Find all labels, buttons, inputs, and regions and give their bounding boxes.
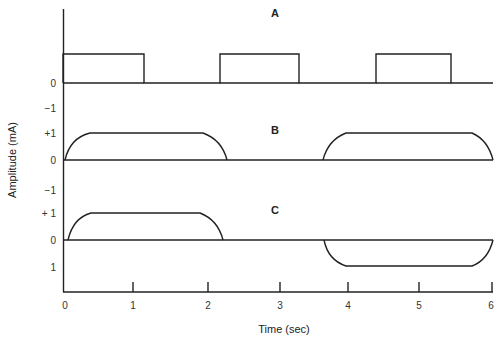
b-minus1-label: −1 <box>45 103 57 114</box>
panel-label-a: A <box>271 7 279 19</box>
b-zero-label: 0 <box>50 155 56 166</box>
c-one-label: 1 <box>50 262 56 273</box>
x-tick-6: 6 <box>488 300 494 311</box>
x-ticks <box>133 282 492 292</box>
x-tick-4: 4 <box>345 300 351 311</box>
c-zero-label: 0 <box>50 235 56 246</box>
x-tick-5: 5 <box>416 300 422 311</box>
y-axis-title: Amplitude (mA) <box>6 122 18 198</box>
trace-b-pulse-1 <box>65 133 227 160</box>
b-plus1-label: +1 <box>45 128 57 139</box>
x-tick-2: 2 <box>205 300 211 311</box>
x-tick-3: 3 <box>277 300 283 311</box>
x-axis-title: Time (sec) <box>258 323 310 335</box>
trace-a <box>63 54 493 83</box>
panel-label-c: C <box>271 204 279 216</box>
trace-b-pulse-2 <box>323 133 493 160</box>
x-tick-0: 0 <box>62 300 68 311</box>
amplitude-time-chart: 0 1 2 3 4 5 6 Time (sec) Amplitude (mA) … <box>0 0 504 343</box>
y-tick-labels: 0 −1 +1 0 −1 + 1 0 1 <box>42 78 57 273</box>
trace-c-pulse-negative <box>324 240 493 266</box>
a-zero-label: 0 <box>50 78 56 89</box>
c-plus1-label: + 1 <box>42 208 57 219</box>
trace-c-pulse-positive <box>68 213 223 240</box>
panel-label-b: B <box>271 124 279 136</box>
x-tick-1: 1 <box>130 300 136 311</box>
c-minus1-label: −1 <box>45 185 57 196</box>
x-tick-labels: 0 1 2 3 4 5 6 <box>62 300 494 311</box>
